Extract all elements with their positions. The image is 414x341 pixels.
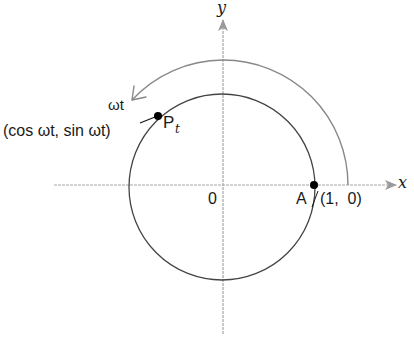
point-p-coords: (cos ωt, sin ωt) <box>3 122 111 139</box>
point-a <box>310 181 318 189</box>
point-a-label: A <box>296 190 307 207</box>
y-axis-label: y <box>216 0 227 17</box>
point-a-coords: (1, 0) <box>320 190 362 207</box>
unit-circle-diagram: y x 0 A (1, 0) ωt (cos ωt, sin ωt) P t <box>0 0 414 341</box>
unit-circle <box>129 94 315 280</box>
point-p <box>154 112 162 120</box>
leader-line <box>140 117 155 123</box>
x-axis-label: x <box>398 173 407 192</box>
point-p-subscript: t <box>175 122 180 136</box>
angle-label: ωt <box>108 96 125 113</box>
origin-label: 0 <box>208 190 217 207</box>
point-p-label: P <box>163 113 174 132</box>
